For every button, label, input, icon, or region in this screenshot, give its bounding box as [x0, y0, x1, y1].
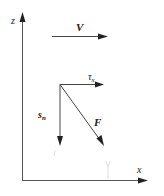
velocity-label: V	[76, 21, 85, 33]
shear-stress-vector: τx	[60, 71, 104, 88]
faint-marks	[54, 150, 110, 179]
shear-stress-arrowhead-icon	[95, 82, 104, 88]
normal-stress-arrowhead-icon	[57, 136, 63, 146]
force-label: F	[93, 116, 102, 128]
x-axis-arrowhead-icon	[138, 178, 148, 184]
z-axis: z	[10, 12, 26, 181]
velocity-arrowhead-icon	[98, 34, 108, 40]
velocity-vector: V	[52, 21, 108, 40]
force-vector: F	[60, 85, 104, 147]
normal-stress-label: sn	[37, 109, 46, 122]
x-axis-label: x	[136, 164, 142, 175]
x-axis: x	[23, 164, 149, 184]
z-axis-arrowhead-icon	[20, 12, 26, 22]
normal-stress-vector: sn	[37, 85, 63, 147]
force-diagram: z x V τx sn F	[0, 0, 164, 196]
shear-stress-label: τx	[88, 71, 96, 84]
z-axis-label: z	[10, 15, 15, 26]
